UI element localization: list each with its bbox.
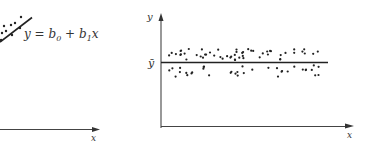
scatter-point [185, 58, 187, 60]
scatter-point [184, 53, 186, 55]
right-panel [159, 13, 355, 129]
scatter-point [311, 69, 313, 71]
scatter-point [234, 73, 236, 75]
scatter-point [185, 72, 187, 74]
scatter-point [226, 55, 228, 57]
right-ybar-label: ȳ [148, 58, 154, 69]
scatter-point [191, 71, 193, 73]
scatter-point [14, 22, 16, 24]
scatter-point [1, 32, 3, 34]
scatter-point [219, 56, 221, 58]
eq-part: + b [61, 27, 86, 41]
right-y-axis-arrow-icon [159, 13, 164, 21]
scatter-point [203, 66, 205, 68]
scatter-point [267, 53, 269, 55]
eq-part: x [92, 27, 99, 41]
right-y-axis-label: y [147, 12, 153, 22]
scatter-point [276, 67, 278, 69]
scatter-point [293, 48, 295, 50]
scatter-point [259, 56, 261, 58]
scatter-point [175, 53, 177, 55]
scatter-point [213, 55, 215, 57]
scatter-point [237, 75, 239, 77]
scatter-point [267, 67, 269, 69]
scatter-point [277, 76, 279, 78]
scatter-point [5, 30, 7, 32]
scatter-point [312, 53, 314, 55]
scatter-point [303, 48, 305, 50]
right-x-axis-label: x [347, 131, 352, 140]
scatter-point [280, 54, 282, 56]
scatter-point [230, 71, 232, 73]
scatter-point [250, 50, 252, 52]
scatter-point [202, 68, 204, 70]
scatter-point [287, 70, 289, 72]
scatter-point [270, 50, 272, 52]
scatter-point [196, 54, 198, 56]
scatter-point [180, 49, 182, 51]
scatter-point [234, 59, 236, 61]
scatter-point [179, 71, 181, 73]
eq-part: y = b [24, 27, 56, 41]
scatter-point [188, 48, 190, 50]
scatter-point [3, 25, 5, 27]
scatter-point [318, 66, 320, 68]
scatter-point [20, 16, 22, 18]
scatter-point [247, 48, 249, 50]
scatter-point [266, 50, 268, 52]
scatter-point [217, 49, 219, 51]
scatter-point [11, 34, 13, 36]
scatter-point [205, 54, 207, 56]
scatter-point [238, 57, 240, 59]
scatter-point [243, 72, 245, 74]
scatter-point [171, 67, 173, 69]
scatter-point [317, 74, 319, 76]
scatter-point [241, 52, 243, 54]
scatter-point [234, 54, 236, 56]
scatter-point [180, 53, 182, 55]
scatter-point [242, 55, 244, 57]
scatter-point [251, 69, 253, 71]
scatter-point [168, 69, 170, 71]
scatter-point [175, 76, 177, 78]
scatter-point [302, 69, 304, 71]
scatter-point [202, 57, 204, 59]
left-equation-label: y = b0 + b1x [24, 28, 99, 43]
scatter-point [208, 74, 210, 76]
scatter-point [19, 27, 21, 29]
left-x-axis-label: x [91, 134, 96, 143]
scatter-point [171, 52, 173, 54]
figure [0, 0, 374, 155]
scatter-point [179, 67, 181, 69]
scatter-point [235, 48, 237, 50]
scatter-point [313, 64, 315, 66]
scatter-point [305, 69, 307, 71]
scatter-point [279, 58, 281, 60]
scatter-point [293, 66, 295, 68]
scatter-point [242, 57, 244, 59]
scatter-point [200, 55, 202, 57]
scatter-point [314, 74, 316, 76]
scatter-point [317, 51, 319, 53]
scatter-point [281, 70, 283, 72]
right-x-axis-arrow-icon [345, 124, 354, 129]
scatter-point [252, 50, 254, 52]
scatter-point [168, 54, 170, 56]
scatter-point [262, 52, 264, 54]
scatter-point [230, 56, 232, 58]
scatter-point [222, 58, 224, 60]
left-x-axis-arrow-icon [92, 127, 100, 132]
scatter-point [293, 52, 295, 54]
scatter-point [284, 52, 286, 54]
scatter-point [186, 74, 188, 76]
scatter-point [241, 65, 243, 67]
scatter-point [304, 52, 306, 54]
scatter-point [201, 48, 203, 50]
scatter-point [301, 51, 303, 53]
scatter-point [209, 51, 211, 53]
scatter-point [236, 71, 238, 73]
scatter-point [235, 51, 237, 53]
scatter-point [10, 24, 12, 26]
